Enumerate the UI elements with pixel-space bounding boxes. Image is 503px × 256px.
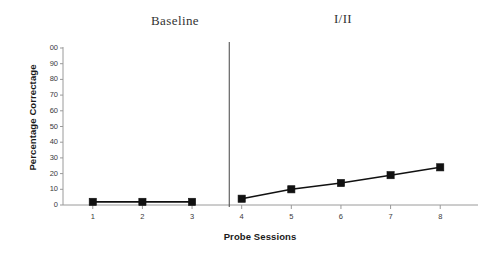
- y-axis-tick-label: 10: [36, 185, 58, 193]
- phase-caption-baseline: Baseline: [110, 13, 240, 29]
- y-axis-tick-label: 80: [36, 75, 58, 83]
- data-point-marker: [89, 198, 96, 205]
- y-axis-tick-label: 30: [36, 154, 58, 162]
- data-point-marker: [437, 164, 444, 171]
- data-point-marker: [288, 186, 295, 193]
- axes: [60, 47, 478, 209]
- x-axis-tick-label: 1: [83, 212, 103, 221]
- y-axis-tick-label: 70: [36, 91, 58, 99]
- y-axis-tick-label: 60: [36, 107, 58, 115]
- data-point-marker: [188, 198, 195, 205]
- y-axis-tick-label: 50: [36, 123, 58, 131]
- y-axis-tick-label: 20: [36, 170, 58, 178]
- data-point-marker: [387, 172, 394, 179]
- x-axis-tick-label: 8: [430, 212, 450, 221]
- x-axis-tick-label: 6: [331, 212, 351, 221]
- data-series: [89, 164, 444, 206]
- data-point-marker: [337, 179, 344, 186]
- y-axis-tick-label: 0: [36, 201, 58, 209]
- y-axis-tick-label: 90: [36, 60, 58, 68]
- x-axis-tick-label: 3: [182, 212, 202, 221]
- y-axis-tick-label: 00: [36, 44, 58, 52]
- chart-figure: Baseline I/II Percentage Correctage Prob…: [0, 0, 503, 256]
- y-axis-tick-labels: 009080706050403020100: [36, 0, 58, 256]
- x-axis-tick-label: 2: [132, 212, 152, 221]
- phase-caption-intervention: I/II: [288, 11, 398, 27]
- x-axis-tick-label: 5: [281, 212, 301, 221]
- x-axis-tick-label: 7: [381, 212, 401, 221]
- data-point-marker: [139, 198, 146, 205]
- series-i-ii: [238, 164, 444, 203]
- x-axis-tick-label: 4: [232, 212, 252, 221]
- series-baseline: [89, 198, 195, 205]
- y-axis-tick-label: 40: [36, 138, 58, 146]
- data-point-marker: [238, 195, 245, 202]
- x-axis-title: Probe Sessions: [150, 231, 370, 242]
